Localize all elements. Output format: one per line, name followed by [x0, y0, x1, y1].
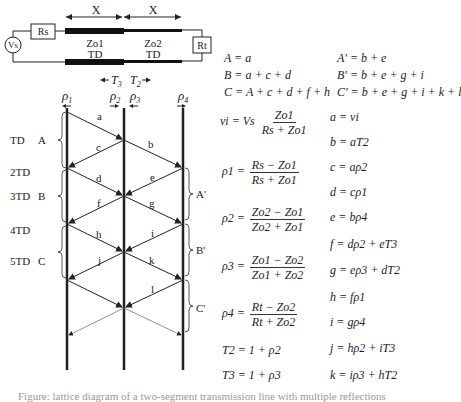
- rho1-label: ρ1: [61, 88, 72, 105]
- termination-resistor-label: Rt: [197, 40, 207, 51]
- wave-h: [67, 224, 122, 251]
- lattice-verticals: [67, 108, 183, 370]
- group-label-b: B: [38, 190, 45, 202]
- figure-caption: Figure: lattice diagram of a two-segment…: [18, 390, 386, 402]
- wave-label-d: d: [96, 172, 102, 184]
- group-label-b-prime: B': [196, 244, 205, 256]
- formula-rho2-lhs: ρ2 =: [222, 211, 245, 225]
- formula-vi: vi = Vs Zo1Rs + Zo1: [220, 108, 309, 137]
- circuit-schematic: X X Vs Rs Zo1 TD Zo2 TD Rt: [5, 3, 211, 65]
- formula-rho1-den: Rs + Zo1: [250, 173, 299, 187]
- rho3-label: ρ3: [129, 88, 140, 105]
- sum-b: B = a + c + d: [224, 68, 291, 83]
- formula-t2: T2 = 1 + ρ2: [222, 343, 281, 358]
- formula-rho1-num: Rs − Zo1: [250, 158, 299, 173]
- time-label-4td: 4TD: [10, 224, 30, 236]
- source-resistor-label: Rs: [38, 26, 49, 37]
- wave-label-a: a: [97, 110, 102, 122]
- wave-eq-e: e = bρ4: [330, 210, 367, 225]
- time-label-td: TD: [10, 134, 25, 146]
- group-label-a: A: [38, 134, 46, 146]
- brace-b-prime: [185, 224, 193, 276]
- length-label-1: X: [92, 3, 101, 17]
- brace-a: [58, 112, 66, 168]
- formula-rho3-den: Zo1 + Zo2: [250, 268, 305, 282]
- wave-next-right: [124, 308, 181, 335]
- wave-j: [69, 252, 124, 279]
- group-label-a-prime: A': [196, 188, 206, 200]
- formula-rho2-num: Zo2 − Zo1: [250, 205, 305, 220]
- formula-rho3-lhs: ρ3 =: [222, 259, 245, 273]
- sum-a-prime: A' = b + e: [337, 51, 386, 66]
- group-label-c-prime: C': [196, 302, 205, 314]
- formula-t3: T3 = 1 + ρ3: [222, 368, 281, 383]
- wave-d: [67, 168, 122, 195]
- formula-rho2: ρ2 = Zo2 − Zo1Zo2 + Zo1: [222, 205, 305, 234]
- wave-eq-g: g = eρ3 + dT2: [330, 263, 400, 278]
- wave-i: [126, 224, 183, 251]
- brace-c: [58, 226, 66, 278]
- sum-a: A = a: [224, 51, 251, 66]
- wave-l: [126, 280, 183, 307]
- wave-eq-f: f = dρ2 + eT3: [330, 237, 397, 252]
- formula-rho4-den: Rt + Zo2: [250, 315, 297, 329]
- formula-rho3-num: Zo1 − Zo2: [250, 253, 305, 268]
- wave-label-g: g: [149, 197, 155, 209]
- wave-label-f: f: [97, 197, 101, 209]
- time-label-5td: 5TD: [10, 255, 30, 267]
- t2-label: T2: [130, 73, 141, 89]
- rho2-label: ρ2: [109, 88, 120, 105]
- sum-c: C = A + c + d + f + h: [224, 85, 330, 100]
- wave-label-h: h: [96, 228, 102, 240]
- time-labels: TD 2TD 3TD 4TD 5TD A B C A' B' C': [10, 134, 206, 314]
- braces: [58, 112, 193, 332]
- wave-label-i: i: [151, 227, 154, 239]
- formula-rho1-lhs: ρ1 =: [222, 164, 245, 178]
- voltage-source-label: Vs: [8, 40, 18, 50]
- wave-h2: [67, 280, 122, 307]
- wave-eq-h: h = fρ1: [330, 290, 365, 305]
- group-label-c: C: [38, 255, 45, 267]
- wave-a: [67, 112, 122, 139]
- wave-labels: a b c d e f g h i j k l: [96, 110, 155, 295]
- formula-vi-lhs: vi = Vs: [220, 114, 255, 128]
- formula-rho1: ρ1 = Rs − Zo1Rs + Zo1: [222, 158, 299, 187]
- wave-eq-i: i = gρ4: [330, 315, 365, 330]
- sum-b-prime: B' = b + e + g + i: [337, 68, 424, 83]
- formula-rho2-den: Zo2 + Zo1: [250, 220, 305, 234]
- wave-next-left: [69, 308, 124, 335]
- brace-b: [58, 170, 66, 222]
- wave-label-j: j: [97, 254, 101, 266]
- wave-label-k: k: [149, 254, 155, 266]
- time-label-3td: 3TD: [10, 190, 30, 202]
- delay-label-1: TD: [88, 48, 103, 60]
- coefficient-labels: T3 T2 ρ1 ρ2 ρ3 ρ4: [61, 73, 188, 108]
- wave-label-c: c: [96, 141, 101, 153]
- line-segment-2-top: [124, 29, 182, 32]
- wave-eq-k: k = iρ3 + hT2: [330, 368, 397, 383]
- length-label-2: X: [149, 3, 158, 17]
- formula-rho4-lhs: ρ4 =: [222, 306, 245, 320]
- wave-label-b: b: [148, 138, 154, 150]
- line-segment-2-bottom: [124, 60, 182, 63]
- time-label-2td: 2TD: [10, 166, 30, 178]
- wave-eq-j: j = hρ2 + iT3: [330, 341, 395, 356]
- rho4-label: ρ4: [177, 88, 188, 105]
- wave-label-e: e: [150, 171, 155, 183]
- formula-rho4-num: Rt − Zo2: [250, 300, 297, 315]
- brace-c-prime: [185, 280, 193, 332]
- formula-rho4: ρ4 = Rt − Zo2Rt + Zo2: [222, 300, 297, 329]
- brace-a-prime: [185, 168, 193, 220]
- wave-label-l: l: [151, 283, 154, 295]
- line-segment-1-top: [65, 28, 124, 34]
- wave-eq-c: c = aρ2: [330, 160, 367, 175]
- formula-rho3: ρ3 = Zo1 − Zo2Zo1 + Zo2: [222, 253, 305, 282]
- t3-label: T3: [111, 73, 122, 89]
- sum-c-prime: C' = b + e + g + i + k + l: [337, 85, 461, 100]
- wave-eq-d: d = cρ1: [330, 185, 367, 200]
- wave-eq-b: b = aT2: [330, 135, 369, 150]
- formula-vi-den: Rs + Zo1: [260, 123, 309, 137]
- wave-eq-a: a = vi: [330, 110, 359, 125]
- delay-label-2: TD: [146, 48, 161, 60]
- formula-vi-num: Zo1: [273, 108, 296, 123]
